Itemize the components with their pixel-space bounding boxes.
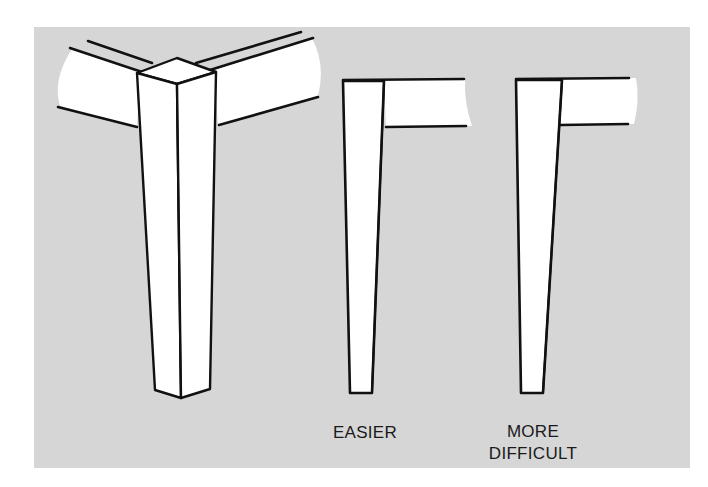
easier-label: EASIER (333, 423, 397, 442)
more-difficult-apron (560, 78, 638, 125)
leg-right-face (177, 72, 216, 398)
more-difficult-apron-top-edge (516, 78, 629, 79)
more-label: MORE (507, 422, 559, 441)
easier-apron-top-edge (343, 79, 464, 80)
more-difficult-apron-bottom-edge (560, 124, 628, 125)
easier-apron-bottom-edge (386, 126, 466, 127)
difficult-label: DIFFICULT (489, 444, 577, 463)
easier-apron (384, 79, 472, 127)
tapered-leg-diagram: EASIER MORE DIFFICULT (0, 0, 708, 487)
